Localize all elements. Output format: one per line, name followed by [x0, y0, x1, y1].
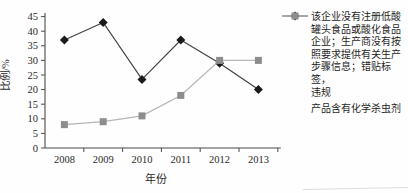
line-chart-figure: 0510152025303540452008200920102011201220… [0, 0, 408, 193]
svg-text:2009: 2009 [93, 154, 114, 165]
legend-item-violations-label: 该企业没有注册低酸 罐头食品或酸化食品 企业；生产商没有按 照要求提供有关生产 … [311, 11, 406, 99]
svg-text:2008: 2008 [54, 154, 75, 165]
svg-text:2010: 2010 [132, 154, 153, 165]
chart-legend: 该企业没有注册低酸 罐头食品或酸化食品 企业；生产商没有按 照要求提供有关生产 … [282, 11, 408, 120]
svg-text:2011: 2011 [170, 154, 191, 165]
svg-text:5: 5 [33, 128, 38, 139]
axis-tick-labels: 0510152025303540452008200920102011201220… [28, 11, 269, 165]
svg-text:10: 10 [28, 113, 39, 124]
svg-text:25: 25 [28, 70, 39, 81]
svg-text:20: 20 [28, 84, 39, 95]
svg-text:40: 40 [28, 26, 39, 37]
svg-text:15: 15 [28, 99, 39, 110]
legend-item-pesticide-label: 产品含有化学杀虫剂 [311, 103, 406, 116]
svg-text:45: 45 [28, 11, 39, 22]
svg-text:35: 35 [28, 40, 39, 51]
x-axis-label: 年份 [145, 172, 167, 185]
svg-text:0: 0 [33, 143, 38, 154]
svg-text:30: 30 [28, 55, 39, 66]
legend-item-pesticide: 产品含有化学杀虫剂 [282, 103, 408, 116]
svg-text:2012: 2012 [209, 154, 230, 165]
legend-item-violations: 该企业没有注册低酸 罐头食品或酸化食品 企业；生产商没有按 照要求提供有关生产 … [282, 11, 408, 99]
svg-text:2013: 2013 [248, 154, 269, 165]
chart-series-lines [60, 18, 263, 128]
y-axis-label: 比例/% [0, 59, 11, 91]
